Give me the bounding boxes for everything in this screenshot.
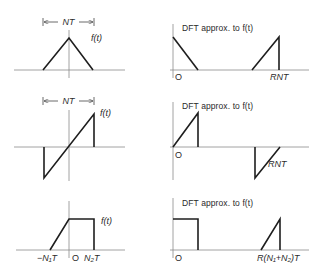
triangle-curve (43, 38, 93, 70)
origin-label: O (175, 150, 182, 160)
neg-n1t-label: −N₁T (37, 253, 59, 263)
leading-half-triangle (173, 37, 198, 70)
row1-left-plot: NT f(t) (14, 17, 125, 78)
r-n1-n2-t-label: R(N₁+N₂)T (257, 253, 301, 263)
nt-label: NT (63, 96, 76, 106)
f-of-t-label: f(t) (101, 216, 112, 226)
row3-left-plot: f(t) −N₁T O N₂T (16, 201, 125, 263)
n2t-label: N₂T (84, 253, 101, 263)
dft-title: DFT approx. to f(t) (182, 101, 253, 111)
trailing-ramp (261, 219, 280, 250)
nt-dimension-marker: NT (43, 96, 94, 106)
row2-right-plot: DFT approx. to f(t) O RNT (170, 101, 309, 180)
f-of-t-label: f(t) (91, 33, 102, 43)
leading-flat-top (173, 219, 198, 250)
row3-right-plot: DFT approx. to f(t) O R(N₁+N₂)T (170, 198, 309, 263)
positive-ramp (173, 113, 198, 147)
dft-title: DFT approx. to f(t) (182, 23, 253, 33)
origin-label: O (175, 72, 182, 82)
trapezoid-curve (50, 219, 94, 250)
row2-left-plot: NT f(t) (14, 96, 125, 181)
f-of-t-label: f(t) (100, 108, 111, 118)
rnt-label: RNT (268, 159, 288, 169)
nt-dimension-marker: NT (43, 17, 94, 27)
row1-right-plot: DFT approx. to f(t) O RNT (170, 23, 309, 82)
rnt-label: RNT (270, 72, 290, 82)
trailing-half-triangle (252, 37, 279, 70)
nt-label: NT (63, 17, 76, 27)
origin-label: O (72, 253, 79, 263)
dft-title: DFT approx. to f(t) (182, 198, 253, 208)
origin-label: O (175, 253, 182, 263)
dft-approximation-diagram: NT f(t) DFT approx. to f(t) O RNT NT f(t… (0, 0, 322, 275)
